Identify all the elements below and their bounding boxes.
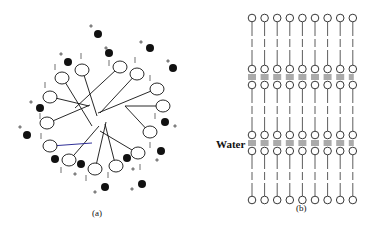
surfactant-head [130,68,144,80]
counterion-dot [36,104,44,112]
head-group [299,14,307,22]
plus-sign [139,40,143,44]
head-group [248,147,256,155]
surfactant-head [88,163,102,175]
water-label: Water [216,138,245,150]
surfactant-head [43,91,57,103]
counterion-dot [23,131,31,139]
panel-a-label: (a) [92,208,102,218]
head-group [286,65,294,73]
head-group [336,147,344,155]
head-group [261,196,269,204]
counterion-dot [105,49,113,57]
head-group [286,147,294,155]
head-group [349,81,357,89]
surfactant-head [109,160,123,172]
counterion-dot [64,58,72,66]
surfactant-tail [96,122,106,164]
head-group [299,147,307,155]
head-group [324,147,332,155]
surfactant-head [75,64,89,76]
surfactant-head [40,117,54,129]
head-group [261,65,269,73]
head-group [248,196,256,204]
counterion-dot [169,64,177,72]
plus-sign [29,100,33,104]
head-group [324,131,332,139]
head-group [324,14,332,22]
plus-sign [131,167,135,171]
head-group [286,14,294,22]
head-group [273,147,281,155]
head-group [273,65,281,73]
head-group [286,131,294,139]
head-group [311,81,319,89]
figure-canvas [0,0,380,236]
head-group [324,196,332,204]
counterion-dot [146,44,154,52]
head-group [311,131,319,139]
head-group [336,14,344,22]
surfactant-tail [56,143,92,146]
counterion-dot [123,154,131,162]
head-group [261,147,269,155]
head-group [299,81,307,89]
plus-sign [166,59,170,63]
counterion-dot [157,147,165,155]
head-group [261,81,269,89]
head-group [349,147,357,155]
surfactant-head [143,126,157,138]
counterion-dot [161,118,169,126]
surfactant-head [43,140,57,152]
panel-b-label: (b) [296,203,307,213]
head-group [286,196,294,204]
lamellar-bilayer-diagram [248,14,357,204]
head-group [311,147,319,155]
head-group [349,196,357,204]
head-group [299,131,307,139]
surfactant-head [156,100,170,112]
head-group [273,131,281,139]
micelle-diagram [18,24,177,194]
plus-sign [59,52,63,56]
counterion-dot [101,183,109,191]
head-group [299,65,307,73]
surfactant-tail [100,78,133,113]
counterion-dot [77,160,85,168]
surfactant-head [150,83,164,95]
head-group [248,65,256,73]
counterion-dot [138,180,146,188]
plus-sign [104,46,108,50]
head-group [248,131,256,139]
surfactant-head [113,61,127,73]
head-group [286,81,294,89]
head-group [273,14,281,22]
surfactant-head [62,154,76,166]
surfactant-tail [98,91,151,113]
head-group [336,196,344,204]
head-group [336,65,344,73]
head-group [273,196,281,204]
surfactant-tail [73,126,99,156]
plus-sign [130,187,134,191]
counterion-dot [94,30,102,38]
head-group [311,196,319,204]
surfactant-tail [105,124,114,161]
head-group [311,14,319,22]
surfactant-head [55,72,69,84]
head-group [336,81,344,89]
surfactant-head [131,147,145,159]
head-group [248,14,256,22]
surfactant-tail [84,75,97,116]
head-group [324,81,332,89]
head-group [248,81,256,89]
head-group [349,14,357,22]
head-group [261,14,269,22]
plus-sign [93,190,97,194]
plus-sign [155,158,159,162]
surfactant-tail [125,106,146,128]
counterion-dot [51,155,59,163]
plus-sign [73,172,77,176]
plus-sign [89,24,93,28]
plus-sign [18,125,22,129]
